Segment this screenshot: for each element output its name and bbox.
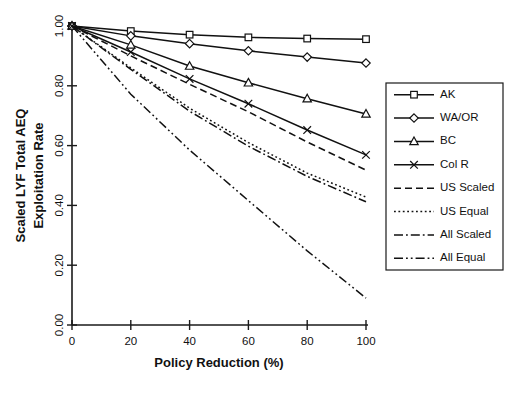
chart-legend[interactable]: AKWA/ORBCCol RUS ScaledUS EqualAll Scale…: [386, 83, 503, 270]
x-tick-label: 100: [356, 335, 375, 347]
series-marker-wa-or: [362, 59, 370, 67]
series-line-all-scaled: [72, 26, 366, 202]
x-tick-label: 40: [183, 335, 196, 347]
series-marker-ak: [363, 36, 370, 43]
chart-series: [68, 22, 370, 298]
y-axis-title-line2: Exploitation Rate: [31, 122, 46, 228]
series-marker-wa-or: [244, 47, 252, 55]
series-marker-ak: [304, 35, 311, 42]
legend-label-us-equal[interactable]: US Equal: [440, 205, 489, 217]
x-tick-label: 80: [301, 335, 314, 347]
series-line-ak: [72, 26, 366, 39]
y-axis-title-line1: Scaled LYF Total AEQ: [13, 109, 28, 243]
legend-label-ak[interactable]: AK: [440, 88, 456, 100]
legend-label-all-equal[interactable]: All Equal: [440, 251, 485, 263]
series-marker-ak: [245, 34, 252, 41]
legend-label-bc[interactable]: BC: [440, 134, 456, 146]
series-marker-ak: [186, 31, 193, 38]
y-tick-label: 0.00: [53, 314, 65, 336]
legend-marker-ak: [411, 91, 418, 98]
y-tick-label: 0.40: [53, 194, 65, 216]
legend-label-col-r[interactable]: Col R: [440, 158, 469, 170]
x-tick-label: 20: [124, 335, 137, 347]
x-tick-label: 60: [242, 335, 255, 347]
chart-figure: 0204060801000.000.200.400.600.801.00Poli…: [0, 0, 517, 393]
y-tick-label: 0.60: [53, 134, 65, 156]
legend-label-us-scaled[interactable]: US Scaled: [440, 181, 494, 193]
x-axis-title: Policy Reduction (%): [154, 355, 283, 370]
y-tick-label: 0.80: [53, 75, 65, 97]
series-line-us-equal: [72, 26, 366, 197]
y-tick-label: 1.00: [53, 15, 65, 37]
x-tick-label: 0: [69, 335, 75, 347]
series-marker-wa-or: [185, 39, 193, 47]
legend-label-all-scaled[interactable]: All Scaled: [440, 228, 491, 240]
series-line-all-equal: [72, 26, 366, 298]
series-line-col-r: [72, 26, 366, 155]
legend-label-wa-or[interactable]: WA/OR: [440, 111, 479, 123]
chart-axes: [67, 24, 368, 330]
series-marker-wa-or: [303, 53, 311, 61]
y-tick-label: 0.20: [53, 254, 65, 276]
line-chart: 0204060801000.000.200.400.600.801.00Poli…: [0, 0, 517, 393]
